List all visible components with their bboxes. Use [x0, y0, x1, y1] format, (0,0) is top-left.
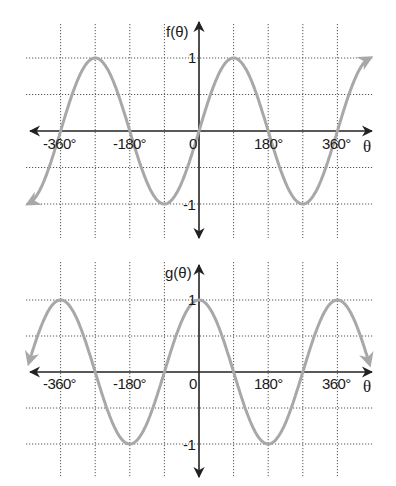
x-tick-label: 0 [189, 135, 197, 152]
x-tick-label: 0 [189, 375, 197, 392]
y-tick-label: 1 [188, 49, 196, 66]
x-tick-label: -360° [43, 135, 77, 152]
x-tick-label: -180° [113, 135, 147, 152]
x-tick-label: -180° [113, 375, 147, 392]
chart-f-theta: f(θ) θ -360° -180° 0 180° 360° 1 -1 [26, 22, 374, 238]
y-tick-label: -1 [183, 436, 195, 453]
x-tick-label: 360° [322, 375, 351, 392]
y-axis-label: g(θ) [165, 264, 192, 281]
y-tick-label: 1 [188, 291, 196, 308]
chart-g-theta: g(θ) θ -360° -180° 0 180° 360° 1 -1 [26, 262, 374, 478]
x-tick-label: 180° [254, 135, 283, 152]
x-tick-label: 360° [322, 135, 351, 152]
x-tick-label: 180° [254, 375, 283, 392]
chart-canvas: f(θ) θ -360° -180° 0 180° 360° 1 -1 g(θ)… [0, 0, 396, 486]
y-tick-label: -1 [183, 196, 195, 213]
x-axis-label: θ [363, 377, 371, 396]
x-axis-label: θ [363, 137, 371, 156]
x-tick-label: -360° [43, 375, 77, 392]
grid-lines [26, 262, 374, 478]
y-axis-label: f(θ) [166, 23, 189, 40]
